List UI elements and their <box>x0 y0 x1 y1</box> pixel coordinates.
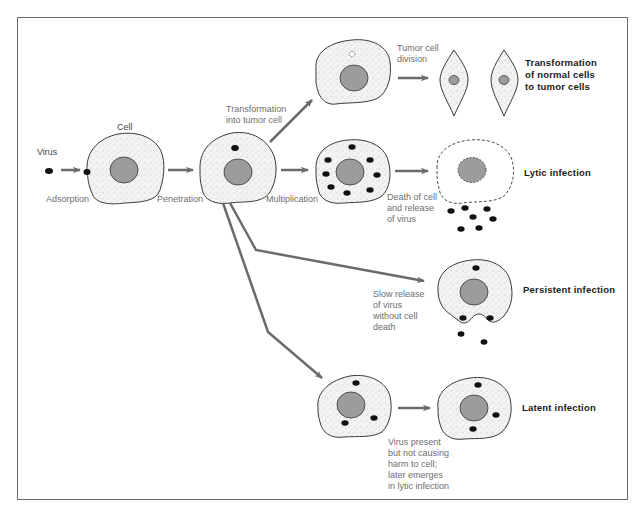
arrow-latent <box>223 203 322 378</box>
label-transformation-into-tumor: Transformation into tumor cell <box>226 104 286 126</box>
label-virus: Virus <box>37 147 57 158</box>
outcome-transformation: Transformation of normal cells to tumor … <box>525 57 597 93</box>
cell-infected <box>200 132 276 203</box>
label-virus-present: Virus present but not causing harm to ce… <box>388 437 449 492</box>
virus-attached <box>84 169 91 175</box>
virus-particle <box>45 168 53 174</box>
label-penetration: Penetration <box>157 194 203 205</box>
label-slow-release: Slow release of virus without cell death <box>373 289 425 333</box>
cell-tumor <box>316 40 391 104</box>
cell-tumor-daughter-2 <box>491 50 518 116</box>
cell-latent-2 <box>438 377 511 439</box>
label-cell: Cell <box>117 122 133 133</box>
label-death-release: Death of cell and release of virus <box>387 192 437 225</box>
outcome-lytic: Lytic infection <box>524 167 591 179</box>
cell-persistent <box>438 260 512 345</box>
released-virions <box>447 205 496 232</box>
cell-tumor-daughter-1 <box>440 50 468 116</box>
label-adsorption: Adsorption <box>46 194 89 205</box>
outcome-latent: Latent infection <box>522 402 596 414</box>
cell-lysed <box>437 140 514 204</box>
cell-multiplying <box>316 140 390 204</box>
label-multiplication: Multiplication <box>266 194 318 205</box>
label-tumor-division: Tumor cell division <box>397 43 439 65</box>
cell-latent-1 <box>318 375 391 437</box>
outcome-persistent: Persistent infection <box>523 284 615 296</box>
cell-normal <box>84 133 164 204</box>
